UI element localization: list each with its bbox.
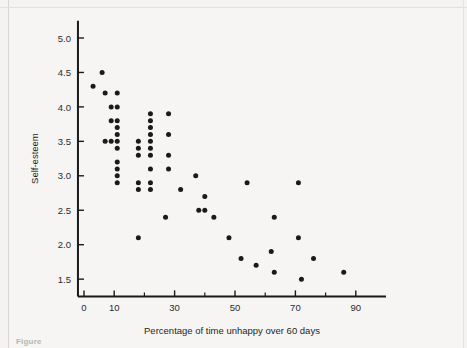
x-tick-label-70: 70 bbox=[290, 302, 301, 313]
data-point bbox=[148, 111, 153, 116]
data-point bbox=[166, 153, 171, 158]
data-point bbox=[196, 208, 201, 213]
data-point bbox=[100, 70, 105, 75]
y-tick-label-5.0: 5.0 bbox=[58, 33, 71, 44]
data-point bbox=[245, 180, 250, 185]
data-point bbox=[269, 249, 274, 254]
data-point bbox=[115, 173, 120, 178]
data-point bbox=[272, 270, 277, 275]
data-point bbox=[148, 139, 153, 144]
data-point bbox=[226, 235, 231, 240]
data-point bbox=[103, 139, 108, 144]
data-point bbox=[163, 215, 168, 220]
data-point bbox=[115, 166, 120, 171]
data-point bbox=[148, 125, 153, 130]
chart-svg: 1.52.02.53.03.54.04.55.001030507090 Perc… bbox=[0, 0, 467, 348]
y-tick-label-3.5: 3.5 bbox=[58, 136, 71, 147]
data-point bbox=[296, 235, 301, 240]
data-point bbox=[115, 132, 120, 137]
y-tick-label-4.0: 4.0 bbox=[58, 102, 71, 113]
data-point bbox=[136, 180, 141, 185]
data-points-group bbox=[91, 70, 347, 282]
x-tick-label-0: 0 bbox=[81, 302, 86, 313]
y-tick-label-2.5: 2.5 bbox=[58, 205, 71, 216]
figure-container: 1.52.02.53.03.54.04.55.001030507090 Perc… bbox=[0, 0, 467, 348]
data-point bbox=[136, 153, 141, 158]
tick-labels-group: 1.52.02.53.03.54.04.55.001030507090 bbox=[58, 33, 361, 314]
data-point bbox=[166, 166, 171, 171]
y-tick-label-2.0: 2.0 bbox=[58, 239, 71, 250]
data-point bbox=[148, 180, 153, 185]
data-point bbox=[136, 139, 141, 144]
data-point bbox=[136, 146, 141, 151]
data-point bbox=[136, 235, 141, 240]
y-tick-label-4.5: 4.5 bbox=[58, 67, 71, 78]
data-point bbox=[109, 118, 114, 123]
data-point bbox=[115, 160, 120, 165]
data-point bbox=[115, 118, 120, 123]
x-axis-label: Percentage of time unhappy over 60 days bbox=[144, 325, 320, 336]
data-point bbox=[115, 146, 120, 151]
data-point bbox=[148, 153, 153, 158]
x-tick-label-50: 50 bbox=[230, 302, 241, 313]
data-point bbox=[239, 256, 244, 261]
data-point bbox=[166, 111, 171, 116]
data-point bbox=[211, 215, 216, 220]
data-point bbox=[148, 187, 153, 192]
data-point bbox=[115, 139, 120, 144]
data-point bbox=[109, 104, 114, 109]
y-tick-label-1.5: 1.5 bbox=[58, 274, 71, 285]
y-axis-label: Self-esteem bbox=[29, 133, 40, 184]
data-point bbox=[115, 125, 120, 130]
data-point bbox=[254, 263, 259, 268]
data-point bbox=[115, 104, 120, 109]
axes-group bbox=[78, 21, 386, 297]
data-point bbox=[296, 180, 301, 185]
data-point bbox=[341, 270, 346, 275]
scatter-plot: 1.52.02.53.03.54.04.55.001030507090 Perc… bbox=[0, 0, 467, 348]
data-point bbox=[148, 166, 153, 171]
data-point bbox=[202, 208, 207, 213]
data-point bbox=[103, 91, 108, 96]
data-point bbox=[299, 277, 304, 282]
data-point bbox=[115, 91, 120, 96]
data-point bbox=[109, 139, 114, 144]
data-point bbox=[148, 146, 153, 151]
data-point bbox=[91, 84, 96, 89]
figure-caption: Figure bbox=[16, 337, 42, 346]
x-tick-label-90: 90 bbox=[351, 302, 362, 313]
data-point bbox=[178, 187, 183, 192]
data-point bbox=[202, 194, 207, 199]
data-point bbox=[136, 187, 141, 192]
y-tick-label-3.0: 3.0 bbox=[58, 170, 71, 181]
x-tick-label-30: 30 bbox=[169, 302, 180, 313]
data-point bbox=[148, 132, 153, 137]
data-point bbox=[148, 118, 153, 123]
data-point bbox=[311, 256, 316, 261]
data-point bbox=[115, 180, 120, 185]
x-tick-label-10: 10 bbox=[109, 302, 120, 313]
data-point bbox=[166, 132, 171, 137]
data-point bbox=[193, 173, 198, 178]
data-point bbox=[272, 215, 277, 220]
